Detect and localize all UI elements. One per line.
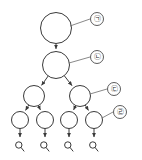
- tree-node-n3-rr[interactable]: [86, 112, 103, 129]
- tree-edge: [38, 106, 40, 110]
- leader-line-callout-3: [90, 89, 107, 94]
- magnifier-glyph: [65, 142, 74, 152]
- tree-node-n2-l[interactable]: [24, 86, 45, 107]
- magnifier-glyph: [41, 142, 50, 152]
- terminals-layer: [16, 129, 99, 152]
- leader-line-callout-1: [70, 19, 90, 26]
- callout-label: ㉡: [94, 53, 101, 61]
- callout-1[interactable]: ㉠: [91, 13, 104, 26]
- callout-2[interactable]: ㉡: [91, 51, 104, 64]
- callout-label: ㉣: [117, 108, 124, 116]
- tree-node-n2-r[interactable]: [70, 86, 91, 107]
- tree-node-n1[interactable]: [43, 52, 70, 79]
- tree-edge: [85, 105, 88, 110]
- tree-node-root[interactable]: [41, 13, 72, 44]
- callout-3[interactable]: ㉢: [108, 83, 121, 96]
- nodes-layer: [12, 13, 103, 129]
- tree-diagram-svg: ㉠㉡㉢㉣: [0, 0, 142, 160]
- callout-label: ㉠: [94, 15, 101, 23]
- tree-node-n3-lr[interactable]: [37, 112, 54, 129]
- leader-line-callout-4: [102, 112, 113, 118]
- magnifier-glyph: [90, 142, 99, 152]
- tree-node-n3-rl[interactable]: [61, 112, 78, 129]
- leader-line-callout-2: [69, 57, 90, 63]
- magnifier-glyph: [16, 142, 25, 152]
- tree-edge: [26, 105, 29, 110]
- callout-4[interactable]: ㉣: [114, 106, 127, 119]
- tree-edge: [42, 76, 49, 85]
- callout-label: ㉢: [111, 85, 118, 93]
- tree-edge: [74, 106, 76, 110]
- tree-diagram-canvas: ㉠㉡㉢㉣: [0, 0, 142, 160]
- tree-edge: [64, 76, 72, 86]
- tree-node-n3-ll[interactable]: [12, 112, 29, 129]
